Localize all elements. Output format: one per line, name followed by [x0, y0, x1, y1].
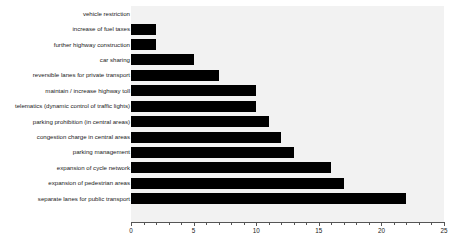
bar-chart-figure: vehicle restrictionincrease of fuel taxe… [0, 0, 456, 246]
x-axis-tick-label: 5 [192, 227, 196, 234]
x-axis-tick-label: 10 [253, 227, 260, 234]
x-axis-minor-tick [431, 222, 432, 225]
x-axis-minor-tick [331, 222, 332, 225]
bar [131, 132, 281, 143]
bar-track [131, 21, 444, 36]
x-axis-minor-tick [244, 222, 245, 225]
category-label: vehicle restriction [0, 11, 131, 17]
chart-row: expansion of cycle network [0, 160, 456, 175]
x-axis-major-tick [381, 222, 382, 226]
bar-track [131, 99, 444, 114]
x-axis-minor-tick [219, 222, 220, 225]
bar [131, 70, 219, 81]
x-axis-minor-tick [306, 222, 307, 225]
x-axis-minor-tick [369, 222, 370, 225]
x-axis-major-tick [194, 222, 195, 226]
bar-track [131, 83, 444, 98]
x-axis-minor-tick [294, 222, 295, 225]
x-axis-minor-tick [156, 222, 157, 225]
bar [131, 178, 344, 189]
bar [131, 101, 256, 112]
bar [131, 85, 256, 96]
x-axis-minor-tick [419, 222, 420, 225]
x-axis-minor-tick [169, 222, 170, 225]
x-axis-tick-label: 15 [315, 227, 322, 234]
x-axis-major-tick [256, 222, 257, 226]
category-label: telematics (dynamic control of traffic l… [0, 103, 131, 109]
bar [131, 162, 331, 173]
bar [131, 147, 294, 158]
x-axis-minor-tick [144, 222, 145, 225]
bar [131, 24, 156, 35]
bar-track [131, 37, 444, 52]
x-axis-tick-label: 25 [440, 227, 447, 234]
category-label: expansion of cycle network [0, 165, 131, 171]
chart-row: car sharing [0, 52, 456, 67]
bar-track [131, 6, 444, 21]
x-axis-minor-tick [281, 222, 282, 225]
x-axis-minor-tick [356, 222, 357, 225]
category-label: parking management [0, 149, 131, 155]
chart-row: reversible lanes for private transport [0, 68, 456, 83]
x-axis-line [131, 222, 444, 223]
bar-track [131, 160, 444, 175]
bar-track [131, 145, 444, 160]
x-axis-minor-tick [231, 222, 232, 225]
chart-row: maintain / increase highway toll [0, 83, 456, 98]
x-axis-minor-tick [406, 222, 407, 225]
chart-row: parking prohibition (in central areas) [0, 114, 456, 129]
category-label: congestion charge in central areas [0, 134, 131, 140]
chart-row: telematics (dynamic control of traffic l… [0, 99, 456, 114]
category-label: reversible lanes for private transport [0, 72, 131, 78]
bar-track [131, 68, 444, 83]
x-axis-tick-label: 0 [129, 227, 133, 234]
bar [131, 39, 156, 50]
bar-track [131, 129, 444, 144]
x-axis-major-tick [444, 222, 445, 226]
chart-row: congestion charge in central areas [0, 129, 456, 144]
x-axis-tick-label: 20 [378, 227, 385, 234]
x-axis-minor-tick [344, 222, 345, 225]
chart-rows: vehicle restrictionincrease of fuel taxe… [0, 6, 456, 222]
bar-track [131, 191, 444, 206]
chart-row: expansion of pedestrian areas [0, 176, 456, 191]
category-label: increase of fuel taxes [0, 26, 131, 32]
bar-track [131, 114, 444, 129]
bar [131, 54, 194, 65]
chart-row: vehicle restriction [0, 6, 456, 21]
x-axis-minor-tick [206, 222, 207, 225]
category-label: maintain / increase highway toll [0, 88, 131, 94]
category-label: car sharing [0, 57, 131, 63]
x-axis-minor-tick [394, 222, 395, 225]
chart-row: further highway construction [0, 37, 456, 52]
bar-track [131, 52, 444, 67]
category-label: further highway construction [0, 42, 131, 48]
x-axis-minor-tick [269, 222, 270, 225]
category-label: expansion of pedestrian areas [0, 180, 131, 186]
x-axis-major-tick [319, 222, 320, 226]
bar [131, 116, 269, 127]
category-label: parking prohibition (in central areas) [0, 119, 131, 125]
x-axis-major-tick [131, 222, 132, 226]
x-axis: 0510152025 [131, 222, 444, 246]
chart-row: separate lanes for public transport [0, 191, 456, 206]
chart-row: increase of fuel taxes [0, 21, 456, 36]
bar-track [131, 176, 444, 191]
bar [131, 193, 406, 204]
x-axis-minor-tick [181, 222, 182, 225]
category-label: separate lanes for public transport [0, 196, 131, 202]
chart-row: parking management [0, 145, 456, 160]
